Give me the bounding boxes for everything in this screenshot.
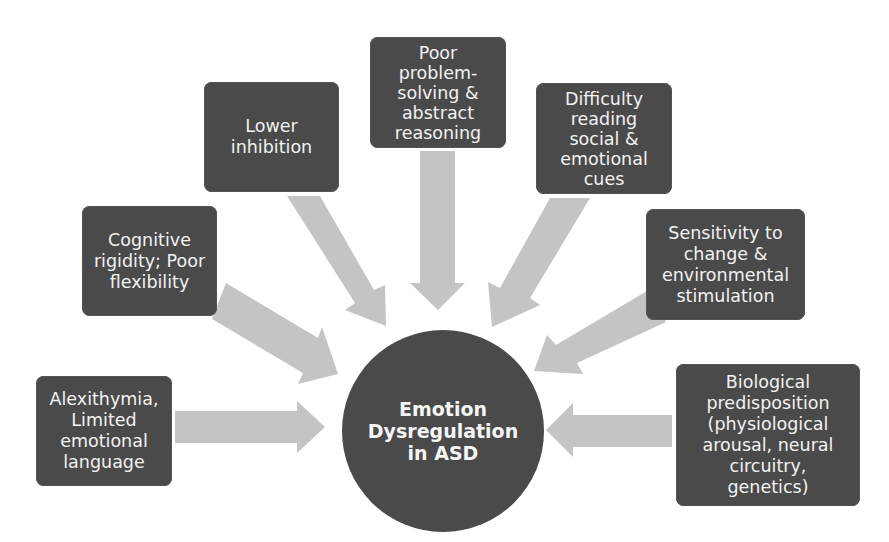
- factor-difficulty-reading-cues: Difficulty reading social & emotional cu…: [536, 83, 672, 194]
- arrow-alexithymia: [175, 401, 325, 453]
- arrow-difficulty-reading: [488, 198, 590, 327]
- factor-cognitive-rigidity: Cognitive rigidity; Poor flexibility: [82, 206, 217, 316]
- center-emotion-dysregulation: Emotion Dysregulation in ASD: [342, 330, 544, 532]
- factor-biological-predisposition: Biological predisposition (physiological…: [676, 364, 860, 506]
- arrow-biological: [546, 403, 672, 457]
- factor-alexithymia: Alexithymia, Limited emotional language: [36, 376, 172, 486]
- arrow-cognitive-rigidity: [212, 283, 338, 384]
- arrow-lower-inhibition: [287, 196, 386, 326]
- arrow-poor-problem-solving: [410, 151, 465, 310]
- factor-poor-problem-solving: Poor problem- solving & abstract reasoni…: [370, 37, 506, 148]
- factor-sensitivity-to-change: Sensitivity to change & environmental st…: [646, 209, 805, 320]
- factor-lower-inhibition: Lower inhibition: [204, 82, 339, 192]
